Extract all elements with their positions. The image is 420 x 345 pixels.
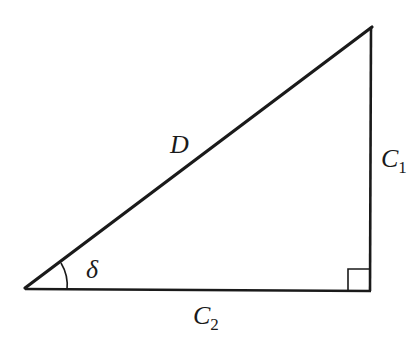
horizontal-leg-line [25,289,371,291]
hypotenuse-label: D [169,130,189,159]
right-triangle-diagram: D C1 C2 δ [0,0,420,345]
right-angle-marker [348,269,370,291]
angle-label: δ [86,255,99,284]
horizontal-leg-label-main: C [193,301,211,330]
vertical-leg-label-main: C [381,144,399,173]
angle-arc [61,263,67,290]
hypotenuse-line [25,27,372,288]
vertical-leg-label-subscript: 1 [398,158,407,177]
vertical-leg-label: C1 [381,144,407,177]
horizontal-leg-label-subscript: 2 [210,315,219,334]
horizontal-leg-label: C2 [193,301,219,334]
vertical-leg-line [370,27,371,291]
